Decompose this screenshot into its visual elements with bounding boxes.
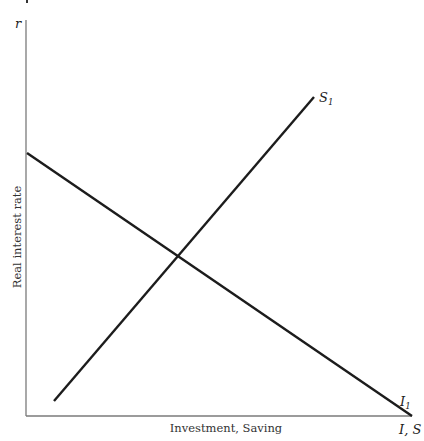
- saving-label-sub: 1: [328, 97, 333, 107]
- saving-curve-label: S1: [319, 90, 333, 107]
- saving-label-main: S: [319, 90, 328, 105]
- saving-curve-s1: [54, 97, 314, 401]
- y-axis-symbol: r: [15, 16, 22, 31]
- investment-label-sub: 1: [405, 401, 410, 411]
- investment-curve-label: I1: [399, 394, 411, 411]
- investment-curve-i1: [27, 153, 412, 416]
- top-edge-mark: [26, 0, 28, 3]
- y-axis-title: Real interest rate: [10, 186, 24, 289]
- x-axis-symbol: I, S: [398, 422, 421, 437]
- loanable-funds-diagram: r I, S Investment, Saving Real interest …: [0, 0, 424, 441]
- x-axis-title: Investment, Saving: [170, 421, 283, 435]
